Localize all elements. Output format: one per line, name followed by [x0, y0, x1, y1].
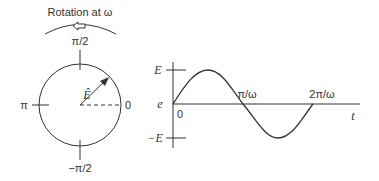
- label-neg-pi-half: −π/2: [68, 162, 91, 174]
- label-E: E: [153, 63, 162, 77]
- phasor-waveform-diagram: Rotation at ω π/2 −π/2 π 0 Ê E e −E 0 π/…: [0, 0, 379, 181]
- waveform-plot: [166, 62, 360, 148]
- label-pi: π: [20, 99, 28, 111]
- label-e: e: [157, 97, 163, 111]
- rotation-title: Rotation at ω: [48, 6, 113, 18]
- label-2pi-omega: 2π/ω: [309, 88, 335, 100]
- label-neg-E: −E: [147, 131, 163, 145]
- label-t: t: [351, 109, 355, 123]
- label-t0: 0: [177, 108, 183, 120]
- label-zero: 0: [125, 99, 131, 111]
- label-pi-half: π/2: [72, 35, 89, 47]
- label-pi-omega: π/ω: [237, 88, 257, 100]
- vector-label: Ê: [82, 88, 91, 102]
- rotation-arrow-icon: [73, 22, 85, 30]
